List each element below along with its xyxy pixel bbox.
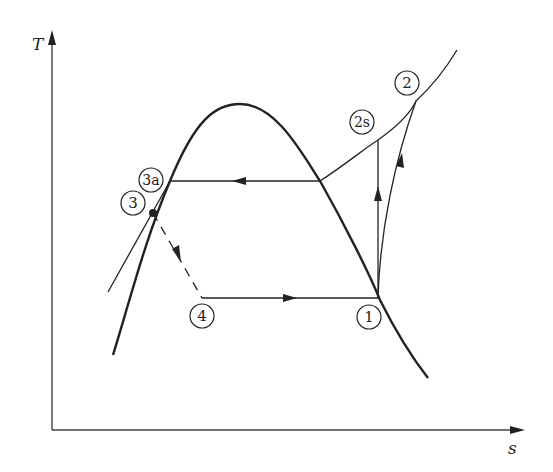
s-axis-arrow-icon — [510, 426, 525, 434]
state-3-dot — [149, 209, 157, 217]
process-4-1-arrow-icon — [283, 294, 297, 302]
svg-text:1: 1 — [364, 308, 374, 326]
process-1-2s-arrow-icon — [374, 186, 382, 201]
t-axis-arrow-icon — [48, 30, 56, 45]
s-axis-label: s — [508, 438, 517, 458]
process-1-2-arrow-icon — [396, 153, 404, 168]
state-label-2: 2 — [395, 71, 419, 95]
svg-text:3: 3 — [128, 194, 138, 212]
svg-text:2: 2 — [402, 74, 412, 92]
condensation-arrow-icon — [232, 177, 246, 185]
process-1-2 — [378, 101, 416, 298]
state-label-4: 4 — [190, 304, 214, 328]
state-label-2s: 2s — [350, 110, 374, 134]
ts-diagram: T s 1 2 2s 3 3a 4 — [0, 0, 553, 472]
svg-text:2s: 2s — [354, 114, 370, 130]
state-label-3a: 3a — [139, 168, 163, 192]
state-label-1: 1 — [357, 305, 381, 329]
state-label-3: 3 — [121, 191, 145, 215]
svg-text:3a: 3a — [142, 172, 159, 188]
svg-text:4: 4 — [197, 307, 207, 325]
superheat-line — [320, 50, 457, 181]
t-axis-label: T — [32, 34, 45, 54]
saturation-dome — [113, 104, 428, 378]
